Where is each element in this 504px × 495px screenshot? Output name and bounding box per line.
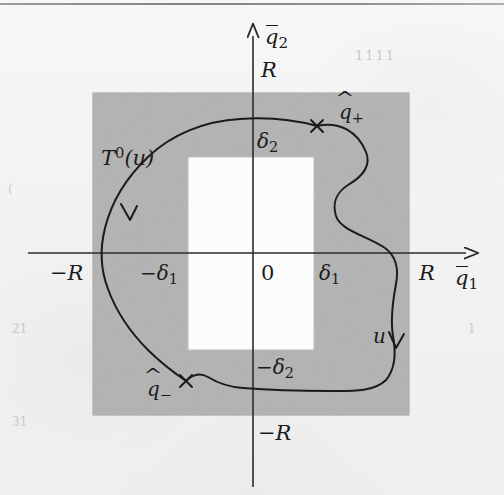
y-tick-label-neg-R: −R — [258, 423, 291, 444]
origin-label: 0 — [261, 263, 274, 284]
y-tick-delta2-sub: 2 — [269, 139, 278, 155]
x-tick-delta1-sub: 1 — [331, 271, 340, 287]
y-tick-neg-delta2-sub: 2 — [285, 365, 294, 381]
trajectory-label-base: T — [101, 146, 115, 170]
shaded-region-group — [93, 93, 409, 415]
q-hat-minus-base: q — [147, 379, 160, 399]
y-axis-label-base: q — [265, 27, 278, 48]
y-axis-label-sub: 2 — [278, 34, 288, 52]
q-hat-minus-label: q− — [147, 379, 172, 402]
y-axis-label: q2 — [265, 27, 288, 51]
y-tick-neg-delta2-base: −δ — [256, 355, 285, 379]
y-tick-label-neg-delta2: −δ2 — [256, 357, 294, 380]
figure-graphics — [0, 0, 504, 495]
x-axis-label-sub: 1 — [468, 275, 478, 293]
x-tick-neg-delta1-base: −δ — [140, 261, 169, 285]
figure-canvas: 1111 ( 21 31 1 — [0, 0, 504, 495]
x-tick-label-R: R — [419, 263, 435, 284]
control-u-label: u — [373, 326, 386, 346]
q-hat-plus-base: q — [339, 102, 352, 122]
x-tick-delta1-base: δ — [319, 261, 331, 285]
x-tick-label-neg-delta1: −δ1 — [140, 263, 178, 286]
x-tick-label-delta1: δ1 — [319, 263, 340, 286]
x-axis-label-base: q — [455, 268, 468, 289]
q-hat-minus-sub: − — [160, 387, 172, 403]
q-hat-plus-label: q+ — [339, 102, 364, 125]
trajectory-label-sup: 0 — [115, 144, 124, 161]
trajectory-label: T0(u) — [101, 146, 154, 169]
x-axis-label: q1 — [455, 268, 478, 292]
x-tick-label-neg-R: −R — [50, 263, 83, 284]
y-tick-label-delta2: δ2 — [257, 131, 278, 154]
trajectory-label-arg: (u) — [124, 146, 154, 170]
x-tick-neg-delta1-sub: 1 — [169, 271, 178, 287]
y-tick-delta2-base: δ — [257, 129, 269, 153]
y-tick-label-R: R — [261, 60, 277, 81]
q-hat-plus-sub: + — [352, 110, 364, 126]
